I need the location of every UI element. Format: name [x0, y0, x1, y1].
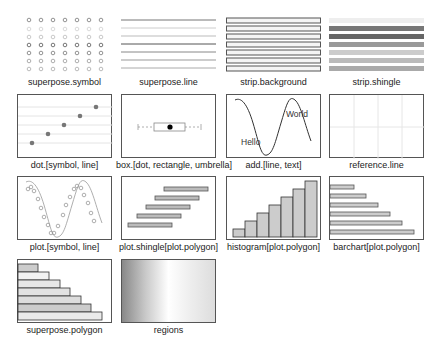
superpose-symbol-graphic [17, 10, 112, 80]
panel-label: superpose.line [121, 77, 216, 87]
panel-label: superpose.symbol [17, 77, 112, 87]
panel-label: dot.[symbol, line] [17, 160, 112, 170]
panel-label: reference.line [329, 160, 424, 170]
cell-superpose-line: superpose.line [121, 10, 216, 90]
histogram-graphic [227, 177, 322, 241]
panel-label: strip.shingle [329, 77, 424, 87]
panel-label: strip.background [226, 77, 321, 87]
superpose-line-graphic [121, 10, 216, 80]
panel-add: Hello World [226, 94, 321, 158]
panel-label: box.[dot, rectangle, umbrella] [116, 160, 221, 170]
panel-label: plot.shingle[plot.polygon] [116, 242, 221, 252]
panel-barchart [329, 176, 424, 240]
cell-strip-shingle: strip.shingle [329, 10, 424, 90]
strip-background-graphic [226, 10, 321, 80]
panel-superpose-polygon [17, 259, 112, 323]
panel-plot-shingle [121, 176, 216, 240]
panel-label: histogram[plot.polygon] [221, 242, 326, 252]
panel-reference-line [329, 94, 424, 158]
panel-regions [121, 259, 216, 323]
panel-label: barchart[plot.polygon] [324, 242, 429, 252]
reference-line-graphic [330, 95, 425, 159]
panel-dot [17, 94, 112, 158]
box-plot-graphic [122, 95, 217, 159]
panel-box [121, 94, 216, 158]
panel-label: add.[line, text] [226, 160, 321, 170]
panel-plot [17, 176, 112, 240]
plot-shingle-graphic [122, 177, 217, 241]
panel-label: regions [121, 325, 216, 335]
panel-label: plot.[symbol, line] [17, 242, 112, 252]
barchart-graphic [330, 177, 425, 241]
panel-histogram [226, 176, 321, 240]
panel-label: superpose.polygon [17, 325, 112, 335]
world-annotation: World [286, 109, 308, 119]
superpose-polygon-graphic [18, 260, 113, 324]
plot-symbol-line-graphic [18, 177, 113, 241]
hello-annotation: Hello [241, 137, 261, 147]
dot-plot-graphic [18, 95, 113, 159]
add-line-text-graphic: Hello World [227, 95, 322, 159]
cell-strip-background: strip.background [226, 10, 321, 90]
strip-shingle-graphic [329, 10, 424, 80]
cell-superpose-symbol: superpose.symbol [17, 10, 112, 90]
